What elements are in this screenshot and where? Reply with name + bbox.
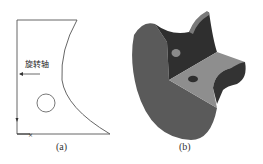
hole-lower xyxy=(188,76,198,82)
hole-upper xyxy=(172,49,181,57)
profile-outline xyxy=(17,20,110,134)
figure-b-solid: (b) xyxy=(131,0,263,164)
rotation-axis-label: 旋转轴 xyxy=(25,58,49,69)
arrow-head-icon xyxy=(19,72,23,76)
hole-circle xyxy=(37,94,55,112)
caption-a: (a) xyxy=(56,141,67,152)
profile-drawing: × xyxy=(0,0,131,164)
down-arrow-icon xyxy=(16,118,19,122)
x-marker-icon: × xyxy=(28,131,33,138)
solid-render xyxy=(131,0,263,164)
figure-a-profile: × 旋转轴 (a) xyxy=(0,0,131,164)
caption-b: (b) xyxy=(179,141,191,152)
